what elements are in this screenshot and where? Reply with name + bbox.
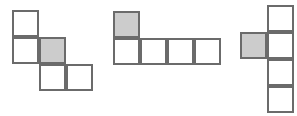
plain-square xyxy=(194,38,221,65)
figure-3-column xyxy=(240,5,294,113)
shaded-square xyxy=(240,32,267,59)
figure-1-staircase xyxy=(12,10,93,91)
plain-square xyxy=(12,10,39,37)
plain-square xyxy=(267,5,294,32)
shaded-square xyxy=(113,11,140,38)
plain-square xyxy=(167,38,194,65)
plain-square xyxy=(267,59,294,86)
shaded-square xyxy=(39,37,66,64)
plain-square xyxy=(267,32,294,59)
figure-2-l-shape xyxy=(113,11,221,65)
plain-square xyxy=(113,38,140,65)
figure-canvas xyxy=(0,0,297,116)
plain-square xyxy=(39,64,66,91)
plain-square xyxy=(267,86,294,113)
plain-square xyxy=(140,38,167,65)
plain-square xyxy=(12,37,39,64)
plain-square xyxy=(66,64,93,91)
